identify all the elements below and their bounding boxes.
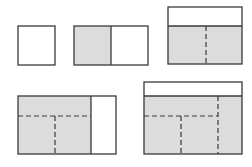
unshaded-region xyxy=(168,7,242,26)
unshaded-region xyxy=(18,26,55,65)
figure-fig5 xyxy=(144,82,242,154)
figure-fig3 xyxy=(168,7,242,64)
shaded-region xyxy=(74,26,111,65)
unshaded-region xyxy=(144,82,242,96)
shaded-region xyxy=(168,26,242,64)
shaded-region xyxy=(144,96,242,154)
figure-fig1 xyxy=(18,26,55,65)
diagram-canvas xyxy=(0,0,252,167)
unshaded-region xyxy=(111,26,148,65)
figure-fig4 xyxy=(18,96,116,154)
unshaded-region xyxy=(91,96,116,154)
figure-fig2 xyxy=(74,26,148,65)
